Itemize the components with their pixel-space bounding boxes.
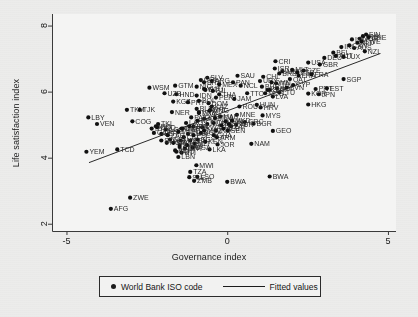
scatter-plot-canvas [0, 0, 418, 317]
legend-line-icon [223, 286, 265, 287]
x-axis-label: Governance index [0, 252, 418, 262]
legend-item-marker: World Bank ISO code [111, 282, 203, 292]
chart-legend: World Bank ISO code Fitted values [99, 276, 321, 297]
legend-item-fitted: Fitted values [223, 282, 318, 292]
legend-dot-icon [111, 284, 116, 289]
legend-label-fitted: Fitted values [270, 282, 318, 292]
legend-label-iso: World Bank ISO code [121, 282, 203, 292]
chart-figure: Governance index Life satisfaction index… [0, 0, 418, 317]
y-axis-label: Life satisfaction index [11, 58, 21, 188]
